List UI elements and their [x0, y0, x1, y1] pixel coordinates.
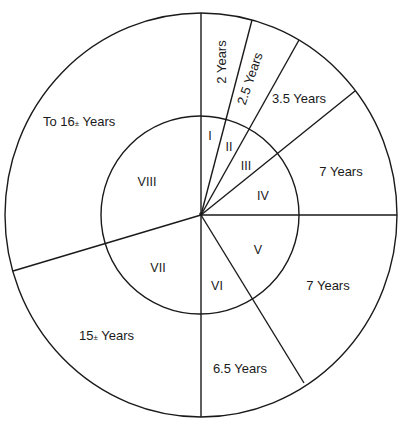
divider-iii-iv — [201, 91, 355, 215]
center-point — [199, 212, 203, 216]
divider-v-vi — [201, 215, 304, 383]
duration-label-iii: 3.5 Years — [272, 91, 327, 106]
duration-label-vii: 15± Years — [79, 328, 135, 343]
divider-vii-viii — [13, 215, 201, 271]
sector-label-iii: III — [241, 159, 251, 173]
sector-label-i: I — [208, 129, 211, 143]
duration-label-viii: To 16± Years — [43, 114, 116, 129]
sector-diagram: I II III IV V VI VII VIII 2 Years 2.5 Ye… — [0, 0, 400, 425]
duration-label-i: 2 Years — [214, 40, 229, 84]
sector-label-iv: IV — [257, 189, 269, 203]
duration-label-v: 7 Years — [306, 278, 350, 293]
sector-label-vii: VII — [150, 261, 165, 275]
duration-label-iv: 7 Years — [319, 164, 363, 179]
duration-label-vi: 6.5 Years — [213, 361, 268, 376]
sector-label-ii: II — [226, 140, 233, 154]
duration-label-ii: 2.5 Years — [234, 50, 266, 107]
sector-label-vi: VI — [211, 279, 223, 293]
sector-label-viii: VIII — [138, 175, 157, 189]
sector-label-v: V — [254, 243, 263, 257]
